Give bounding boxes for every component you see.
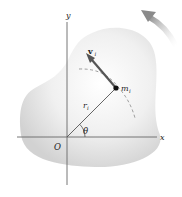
- mass-label: m: [121, 84, 129, 93]
- rigid-body-diagram: y x O v i m i r i θ: [0, 0, 182, 197]
- origin-label: O: [54, 142, 61, 152]
- velocity-label: v: [87, 46, 93, 56]
- y-axis-label: y: [65, 11, 71, 20]
- x-axis-label: x: [160, 133, 165, 142]
- radius-subscript: i: [87, 105, 89, 111]
- mass-subscript: i: [129, 88, 131, 94]
- velocity-subscript: i: [95, 51, 97, 57]
- angle-label: θ: [83, 126, 88, 136]
- mass-point-icon: [113, 85, 118, 90]
